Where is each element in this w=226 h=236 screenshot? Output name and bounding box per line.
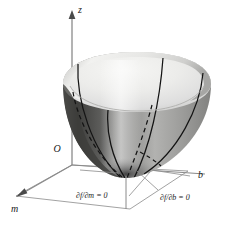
z-axis-label: z — [77, 4, 82, 15]
paraboloid-surface — [63, 52, 211, 190]
paraboloid-figure: z b m O ∂f/∂m = 0 ∂f/∂b = 0 — [0, 0, 226, 236]
b-axis-label: b — [198, 169, 203, 180]
figure-canvas: z b m O ∂f/∂m = 0 ∂f/∂b = 0 — [0, 0, 226, 236]
m-axis — [16, 165, 72, 197]
partial-derivative-b-label: ∂f/∂b = 0 — [160, 193, 190, 202]
leader-partial-b — [137, 171, 158, 190]
partial-derivative-m-label: ∂f/∂m = 0 — [76, 191, 108, 200]
origin-label: O — [53, 143, 60, 154]
m-axis-label: m — [11, 203, 18, 214]
